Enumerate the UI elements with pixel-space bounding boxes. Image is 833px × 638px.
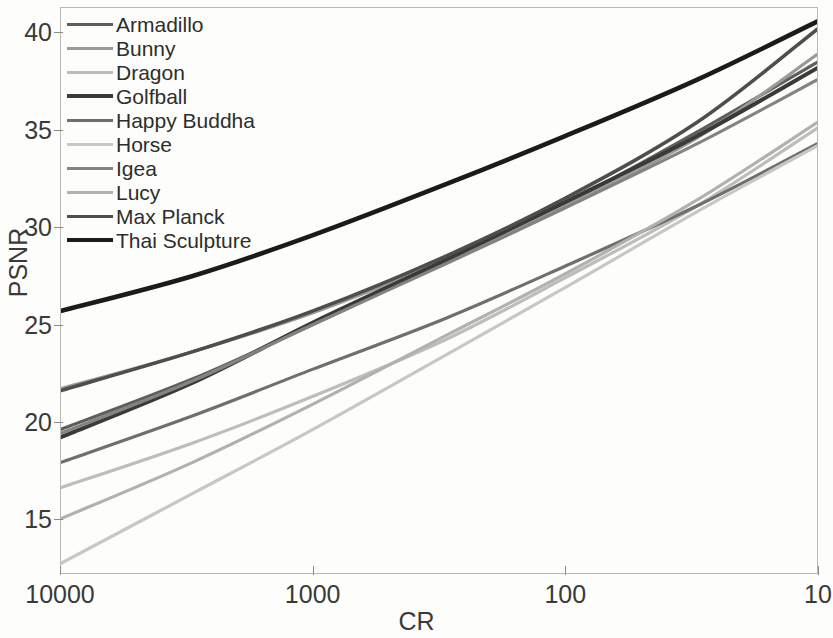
legend-swatch-icon [67,47,113,50]
x-axis-tick-mark [565,566,566,575]
x-axis-tick-label: 10 [804,582,832,607]
x-axis-tick-label: 10000 [25,582,95,607]
legend-item[interactable]: Max Planck [67,204,255,228]
legend-swatch-icon [67,167,113,170]
legend-swatch-icon [67,191,113,194]
y-axis-tick-mark [54,519,63,520]
legend-item-label: Igea [116,158,157,179]
legend-item-label: Thai Sculpture [116,230,251,251]
chart-figure: 403530252015 10000100010010 PSNR CR Arma… [0,0,833,638]
y-axis-tick-label: 40 [0,20,52,45]
x-axis-tick-mark [60,566,61,575]
legend-item[interactable]: Dragon [67,60,255,84]
legend-item[interactable]: Golfball [67,84,255,108]
legend-item-label: Max Planck [116,206,225,227]
legend-item-label: Armadillo [116,14,204,35]
legend-item[interactable]: Thai Sculpture [67,228,255,252]
y-axis-tick-mark [54,227,63,228]
legend-item-label: Happy Buddha [116,110,255,131]
legend-item[interactable]: Igea [67,156,255,180]
y-axis-tick-label: 15 [0,507,52,532]
legend-item-label: Lucy [116,182,160,203]
legend-item[interactable]: Happy Buddha [67,108,255,132]
legend-swatch-icon [67,119,113,122]
legend-swatch-icon [67,215,113,218]
legend-item[interactable]: Horse [67,132,255,156]
y-axis-tick-mark [54,130,63,131]
x-axis-tick-mark [313,566,314,575]
y-axis-tick-mark [54,325,63,326]
x-axis-tick-label: 1000 [285,582,341,607]
y-axis-tick-mark [54,32,63,33]
legend-swatch-icon [67,94,113,98]
legend-item-label: Dragon [116,62,185,83]
y-axis-tick-label: 35 [0,117,52,142]
x-axis-tick-label: 100 [544,582,586,607]
legend-swatch-icon [67,143,113,146]
legend-item-label: Bunny [116,38,176,59]
y-axis-label: PSNR [4,178,33,348]
legend-swatch-icon [67,71,113,74]
x-axis-tick-mark [818,566,819,575]
y-axis-tick-mark [54,422,63,423]
x-axis-label: CR [0,607,833,636]
legend-item[interactable]: Bunny [67,36,255,60]
legend-swatch-icon [67,238,113,242]
legend: ArmadilloBunnyDragonGolfballHappy Buddha… [67,12,255,252]
legend-item[interactable]: Lucy [67,180,255,204]
legend-item-label: Horse [116,134,172,155]
legend-item-label: Golfball [116,86,187,107]
legend-item[interactable]: Armadillo [67,12,255,36]
y-axis-tick-label: 20 [0,410,52,435]
legend-swatch-icon [67,23,113,26]
